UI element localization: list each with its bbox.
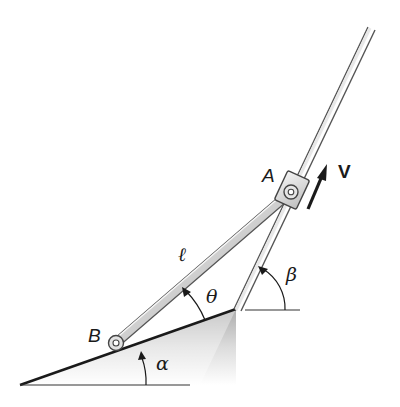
label-beta: β (286, 265, 297, 284)
guide-rod (234, 27, 375, 311)
pin-a (284, 185, 298, 199)
label-length: ℓ (178, 245, 186, 264)
mechanism-diagram (0, 0, 400, 407)
label-velocity: V (338, 162, 351, 181)
label-theta: θ (206, 287, 217, 306)
inclined-surface (20, 309, 236, 385)
velocity-arrow (308, 164, 327, 209)
label-point-b: B (88, 326, 101, 345)
pin-b (109, 336, 124, 351)
label-point-a: A (262, 166, 275, 185)
beta-arc (258, 266, 285, 310)
label-alpha: α (156, 354, 169, 373)
theta-arc (182, 287, 205, 320)
